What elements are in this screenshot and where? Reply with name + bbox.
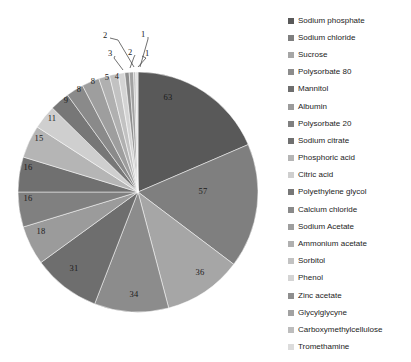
- legend-item-label: Sodium phosphate: [298, 17, 365, 25]
- legend-item[interactable]: Albumin: [288, 98, 411, 115]
- pie-slice-group: [18, 72, 258, 312]
- legend-item[interactable]: Polysorbate 20: [288, 115, 411, 132]
- pie-slice-value-label: 4: [115, 71, 119, 81]
- chart-legend: Sodium phosphateSodium chlorideSucrosePo…: [288, 12, 411, 356]
- pie-callout-value-label: 1: [145, 48, 149, 58]
- legend-item[interactable]: Mannitol: [288, 81, 411, 98]
- legend-item[interactable]: Tromethamine: [288, 339, 411, 356]
- pie-slice-value-label: 18: [37, 226, 46, 236]
- legend-item[interactable]: Sodium Acetate: [288, 218, 411, 235]
- pie-callout-value-label: 3: [108, 48, 112, 58]
- pie-slice-value-label: 5: [105, 72, 109, 82]
- legend-color-swatch-icon: [288, 18, 294, 24]
- pie-slice-value-label: 57: [199, 186, 208, 196]
- legend-item-label: Tromethamine: [298, 343, 349, 351]
- legend-color-swatch-icon: [288, 344, 294, 350]
- pie-slice-value-label: 8: [91, 76, 95, 86]
- legend-item-label: Phenol: [298, 274, 323, 282]
- pie-slice-value-label: 31: [70, 263, 79, 273]
- pie-callout-value-label: 1: [141, 29, 145, 39]
- legend-item-label: Polysorbate 80: [298, 68, 351, 76]
- pie-slice-value-label: 16: [24, 193, 33, 203]
- pie-chart-figure: 6357363431181616151198854 32211 Sodium p…: [0, 0, 411, 362]
- legend-item[interactable]: Sorbitol: [288, 253, 411, 270]
- legend-color-swatch-icon: [288, 155, 294, 161]
- pie-plot-area: 6357363431181616151198854 32211: [0, 0, 275, 362]
- pie-slice-value-label: 11: [48, 113, 57, 123]
- legend-item[interactable]: Sodium phosphate: [288, 12, 411, 29]
- legend-item[interactable]: Ammonium acetate: [288, 235, 411, 252]
- pie-slice-value-label: 9: [64, 95, 68, 105]
- legend-item-label: Ammonium acetate: [298, 240, 367, 248]
- pie-slice-value-label: 8: [77, 84, 81, 94]
- legend-item-label: Sodium Acetate: [298, 223, 354, 231]
- legend-item[interactable]: Zinc acetate: [288, 287, 411, 304]
- legend-color-swatch-icon: [288, 224, 294, 230]
- pie-slice-value-label: 15: [35, 133, 44, 143]
- legend-item[interactable]: Polyethylene glycol: [288, 184, 411, 201]
- pie-callout-value-label: 2: [128, 47, 132, 57]
- legend-item[interactable]: Citric acid: [288, 167, 411, 184]
- legend-color-swatch-icon: [288, 104, 294, 110]
- legend-item-label: Phosphoric acid: [298, 154, 355, 162]
- legend-color-swatch-icon: [288, 138, 294, 144]
- legend-color-swatch-icon: [288, 258, 294, 264]
- legend-color-swatch-icon: [288, 172, 294, 178]
- pie-slice-value-label: 16: [24, 162, 33, 172]
- legend-item-label: Carboxymethylcellulose: [298, 326, 382, 334]
- legend-item[interactable]: Calcium chloride: [288, 201, 411, 218]
- pie-slice-value-label: 36: [196, 267, 205, 277]
- legend-item-label: Polyethylene glycol: [298, 188, 366, 196]
- pie-callout-value-label: 2: [103, 30, 107, 40]
- legend-item[interactable]: Polysorbate 80: [288, 64, 411, 81]
- legend-item-label: Sodium citrate: [298, 137, 349, 145]
- pie-slice-value-label: 63: [164, 92, 173, 102]
- pie-slice-value-label: 34: [130, 289, 139, 299]
- legend-item[interactable]: Sodium chloride: [288, 29, 411, 46]
- legend-color-swatch-icon: [288, 189, 294, 195]
- legend-item-label: Zinc acetate: [298, 292, 342, 300]
- legend-item[interactable]: Sodium citrate: [288, 132, 411, 149]
- legend-item[interactable]: Phenol: [288, 270, 411, 287]
- legend-color-swatch-icon: [288, 121, 294, 127]
- legend-color-swatch-icon: [288, 293, 294, 299]
- callout-leader-line: [114, 56, 123, 70]
- legend-item[interactable]: Phosphoric acid: [288, 150, 411, 167]
- legend-item[interactable]: Sucrose: [288, 46, 411, 63]
- legend-item[interactable]: Glycylglycyne: [288, 304, 411, 321]
- legend-item-label: Albumin: [298, 103, 327, 111]
- pie-svg: [0, 0, 275, 362]
- legend-color-swatch-icon: [288, 69, 294, 75]
- legend-color-swatch-icon: [288, 310, 294, 316]
- legend-color-swatch-icon: [288, 275, 294, 281]
- legend-item[interactable]: Carboxymethylcellulose: [288, 321, 411, 338]
- legend-item-label: Citric acid: [298, 171, 333, 179]
- legend-color-swatch-icon: [288, 241, 294, 247]
- legend-item-label: Sorbitol: [298, 257, 325, 265]
- legend-item-label: Calcium chloride: [298, 206, 357, 214]
- legend-color-swatch-icon: [288, 207, 294, 213]
- legend-item-label: Sucrose: [298, 51, 327, 59]
- legend-item-label: Glycylglycyne: [298, 309, 347, 317]
- legend-color-swatch-icon: [288, 52, 294, 58]
- legend-color-swatch-icon: [288, 327, 294, 333]
- legend-item-label: Polysorbate 20: [298, 120, 351, 128]
- legend-item-label: Mannitol: [298, 85, 328, 93]
- legend-color-swatch-icon: [288, 86, 294, 92]
- legend-color-swatch-icon: [288, 35, 294, 41]
- legend-item-label: Sodium chloride: [298, 34, 355, 42]
